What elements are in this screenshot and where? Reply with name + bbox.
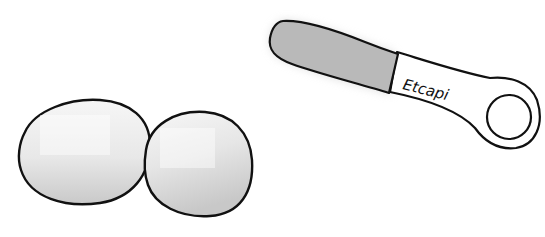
eggs [19,100,252,216]
egg-right-highlight [160,128,215,168]
illustration-canvas: Etcapi [0,0,545,237]
spatula: Etcapi [269,20,540,148]
egg-left-highlight [40,115,110,155]
hanging-hole-icon [487,95,531,139]
spatula-blade [270,21,398,93]
